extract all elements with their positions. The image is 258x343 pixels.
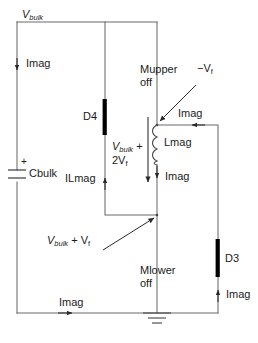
label-imag-lmag: Imag <box>165 170 189 182</box>
label-imag-bottom: Imag <box>59 296 83 308</box>
cbulk-symbol <box>8 170 26 178</box>
d4-symbol <box>103 99 107 135</box>
label-mlower: Mlower <box>140 264 175 276</box>
label-cbulk-polarity: + <box>21 156 27 168</box>
leader-vbulk-vf <box>103 218 154 250</box>
current-arrows <box>17 58 218 313</box>
label-vbulk-plus-vf: Vbulk + Vf <box>47 234 90 248</box>
lmag-coil <box>153 125 158 165</box>
label-lmag: Lmag <box>164 136 192 148</box>
circuit-diagram: Vbulk Imag Cbulk + D4 ILmag Vbulk +2Vf M… <box>0 0 258 343</box>
label-vbulk-top: Vbulk <box>22 8 43 22</box>
d3-symbol <box>216 239 220 277</box>
label-ilmag: ILmag <box>65 172 96 184</box>
label-cbulk: Cbulk <box>29 167 57 179</box>
label-imag-top-right: Imag <box>178 107 202 119</box>
label-vbulk-plus-2vf: Vbulk +2Vf <box>112 140 152 168</box>
label-mupper: Mupper <box>140 63 177 75</box>
label-mupper-state: off <box>140 76 152 88</box>
label-minus-vf: −Vf <box>197 62 213 76</box>
label-mlower-state: off <box>140 277 152 289</box>
label-d4: D4 <box>83 110 97 122</box>
label-d3: D3 <box>225 252 239 264</box>
label-imag-left: Imag <box>26 57 50 69</box>
junction-center-mid <box>156 214 159 217</box>
ground-symbol <box>143 313 171 323</box>
label-imag-d3: Imag <box>226 288 250 300</box>
junction-mupper-drain <box>156 124 159 127</box>
